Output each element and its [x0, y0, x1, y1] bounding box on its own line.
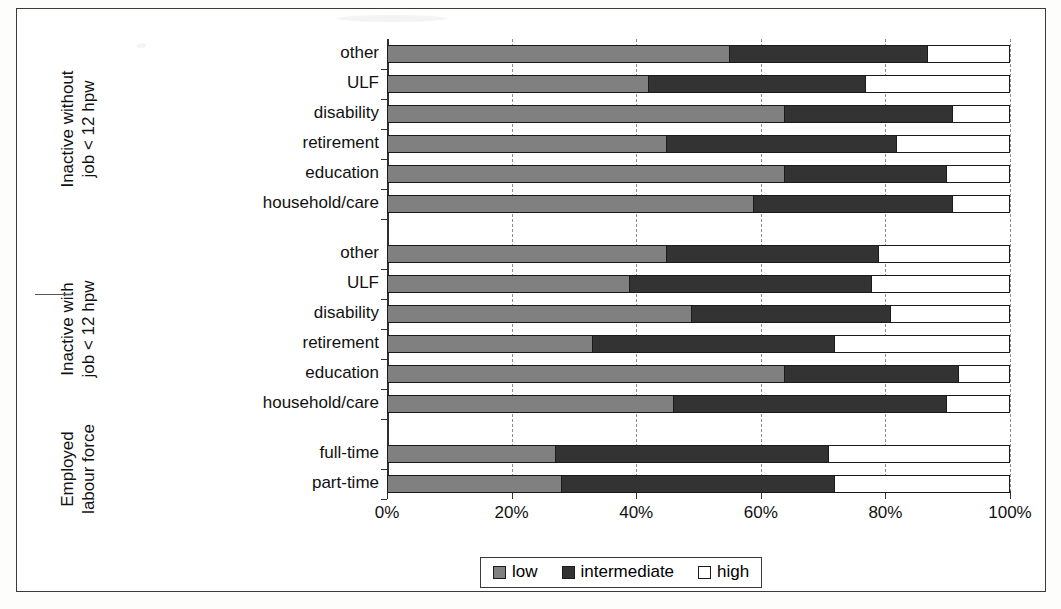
bar-segment-intermediate [692, 306, 891, 322]
x-tick-40 [636, 492, 637, 499]
bar-segment-low [388, 46, 730, 62]
bar-segment-high [835, 336, 1009, 352]
bar-row [387, 475, 1010, 493]
bar-track [387, 45, 1010, 63]
bar-track [387, 135, 1010, 153]
bar-segment-low [388, 366, 785, 382]
x-tick-label-0: 0% [375, 503, 400, 523]
bar-segment-low [388, 196, 754, 212]
bar-segment-low [388, 246, 667, 262]
category-label-ulf: ULF [79, 273, 379, 293]
category-label-other: other [79, 243, 379, 263]
bar-segment-low [388, 276, 630, 292]
category-label-other: other [79, 43, 379, 63]
group-divider [35, 294, 73, 295]
y-axis-category-labels: otherULFdisabilityretirementeducationhou… [75, 9, 379, 492]
x-tick-100 [1010, 492, 1011, 499]
y-tick [381, 269, 387, 270]
bar-row [387, 365, 1010, 383]
bar-track [387, 395, 1010, 413]
bar-segment-intermediate [785, 366, 959, 382]
y-tick [381, 329, 387, 330]
x-tick-label-40: 40% [619, 503, 653, 523]
scanned-page: 0%20%40%60%80%100% otherULFdisabilityret… [0, 0, 1061, 609]
bar-row [387, 75, 1010, 93]
category-label-education: education [79, 363, 379, 383]
bar-segment-intermediate [556, 446, 829, 462]
bar-row [387, 395, 1010, 413]
group-label-line: job < 12 hpw [78, 14, 99, 244]
bar-segment-high [866, 76, 1009, 92]
bar-track [387, 305, 1010, 323]
category-label-household-care: household/care [79, 193, 379, 213]
y-tick [381, 469, 387, 470]
bar-segment-low [388, 136, 667, 152]
category-label-full-time: full-time [79, 443, 379, 463]
y-tick [381, 419, 387, 420]
bar-segment-high [835, 476, 1009, 492]
bar-row [387, 105, 1010, 123]
bar-segment-low [388, 166, 785, 182]
legend-swatch-intermediate-icon [562, 566, 575, 579]
bar-track [387, 195, 1010, 213]
x-tick-label-100: 100% [988, 503, 1031, 523]
bar-row [387, 275, 1010, 293]
y-tick [381, 159, 387, 160]
bar-segment-high [897, 136, 1009, 152]
bar-segment-intermediate [593, 336, 835, 352]
group-label: Employedlabour force [57, 354, 101, 584]
bar-segment-intermediate [754, 196, 953, 212]
legend-item-low: low [493, 562, 538, 582]
x-tick-0 [387, 492, 388, 499]
bar-segment-intermediate [667, 246, 878, 262]
bar-segment-high [953, 196, 1009, 212]
bar-segment-high [947, 166, 1009, 182]
bar-segment-intermediate [674, 396, 947, 412]
x-tick-label-80: 80% [868, 503, 902, 523]
bar-row [387, 165, 1010, 183]
bar-row [387, 305, 1010, 323]
y-tick [381, 359, 387, 360]
y-tick [381, 189, 387, 190]
y-tick [381, 389, 387, 390]
y-tick [381, 129, 387, 130]
bar-track [387, 245, 1010, 263]
bar-segment-intermediate [785, 106, 953, 122]
category-label-part-time: part-time [79, 473, 379, 493]
bar-segment-high [959, 366, 1009, 382]
bar-track [387, 335, 1010, 353]
bar-track [387, 165, 1010, 183]
bar-row [387, 195, 1010, 213]
bar-segment-high [829, 446, 1009, 462]
chart-figure-frame: 0%20%40%60%80%100% otherULFdisabilityret… [16, 8, 1046, 592]
bar-segment-low [388, 476, 562, 492]
y-tick [381, 219, 387, 220]
bar-track [387, 105, 1010, 123]
category-label-education: education [79, 163, 379, 183]
bar-segment-intermediate [630, 276, 872, 292]
bar-segment-intermediate [730, 46, 929, 62]
group-label-line: labour force [78, 354, 99, 584]
bar-segment-high [953, 106, 1009, 122]
bar-segment-low [388, 76, 649, 92]
legend-label-high: high [717, 562, 749, 582]
category-label-retirement: retirement [79, 133, 379, 153]
y-tick [381, 499, 387, 500]
bar-segment-high [947, 396, 1009, 412]
legend-item-intermediate: intermediate [562, 562, 675, 582]
bar-track [387, 75, 1010, 93]
bar-segment-high [891, 306, 1009, 322]
bar-segment-low [388, 106, 785, 122]
legend-label-intermediate: intermediate [581, 562, 675, 582]
bar-segment-intermediate [649, 76, 866, 92]
legend-swatch-low-icon [493, 566, 506, 579]
bar-track [387, 365, 1010, 383]
category-label-disability: disability [79, 103, 379, 123]
bar-segment-low [388, 306, 692, 322]
bar-segment-low [388, 396, 674, 412]
bar-track [387, 275, 1010, 293]
bar-row [387, 135, 1010, 153]
bar-segment-high [928, 46, 1009, 62]
x-tick-label-60: 60% [744, 503, 778, 523]
category-label-disability: disability [79, 303, 379, 323]
